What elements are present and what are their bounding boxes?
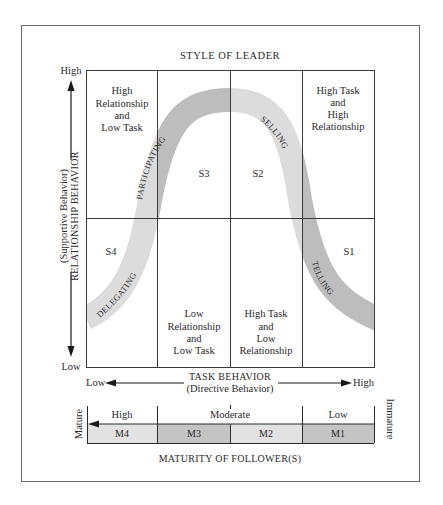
maturity-m2: M2 (259, 428, 273, 439)
maturity-high-label: High (112, 409, 134, 420)
maturity-m3: M3 (187, 428, 201, 439)
quadrant-bottom-left: Low Relationship and Low Task (167, 308, 220, 356)
svg-text:Low: Low (184, 308, 204, 319)
maturity-moderate-label: Moderate (210, 409, 251, 420)
quadrant-top-left: High Relationship and Low Task (95, 85, 148, 133)
x-axis-label-main: TASK BEHAVIOR (189, 371, 271, 382)
y-axis-low-label: Low (61, 361, 81, 372)
maturity-title: MATURITY OF FOLLOWER(S) (159, 453, 302, 465)
arrow-left-icon (105, 380, 116, 387)
mature-label: Mature (73, 409, 84, 440)
svg-text:High Task: High Task (244, 308, 288, 319)
svg-text:High Task: High Task (316, 85, 360, 96)
arrow-down-icon (68, 346, 75, 357)
svg-text:High: High (112, 85, 134, 96)
x-axis-low-label: Low (86, 377, 106, 388)
y-axis-label-main: RELATIONSHIP BEHAVIOR (69, 151, 80, 280)
svg-text:High: High (328, 109, 350, 120)
maturity-low-label: Low (328, 409, 348, 420)
svg-text:Relationship: Relationship (95, 98, 148, 109)
quadrant-bottom-right: High Task and Low Relationship (239, 308, 292, 356)
x-axis-high-label: High (353, 377, 375, 388)
style-s1: S1 (343, 246, 354, 257)
maturity-m1: M1 (331, 428, 345, 439)
x-axis-label-sub: (Directive Behavior) (186, 383, 274, 395)
svg-text:and: and (186, 333, 202, 344)
quadrant-top-right: High Task and High Relationship (311, 85, 364, 132)
svg-text:and: and (114, 110, 130, 121)
immature-label: Immature (385, 399, 396, 440)
style-s4: S4 (105, 246, 117, 257)
style-s2: S2 (252, 168, 263, 179)
svg-text:and: and (330, 97, 346, 108)
y-axis-high-label: High (61, 65, 83, 76)
situational-leadership-diagram: STYLE OF LEADER High Low (Supportive Beh… (0, 0, 443, 505)
arrow-right-icon (341, 380, 352, 387)
diagram-title: STYLE OF LEADER (180, 50, 280, 61)
svg-text:Relationship: Relationship (311, 121, 364, 132)
arrow-up-icon (68, 80, 75, 91)
svg-text:and: and (258, 321, 274, 332)
svg-text:Relationship: Relationship (167, 321, 220, 332)
svg-text:Low Task: Low Task (101, 122, 143, 133)
svg-text:Low: Low (256, 333, 276, 344)
svg-text:Low Task: Low Task (173, 345, 215, 356)
style-s3: S3 (198, 168, 209, 179)
svg-text:Relationship: Relationship (239, 345, 292, 356)
maturity-m4: M4 (115, 428, 129, 439)
